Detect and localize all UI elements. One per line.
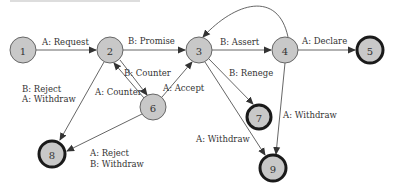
edge-3-7 bbox=[209, 59, 253, 104]
state-node-7-final: 7 bbox=[247, 105, 271, 129]
svg-text:5: 5 bbox=[367, 46, 373, 57]
svg-text:7: 7 bbox=[256, 113, 262, 124]
state-node-6: 6 bbox=[140, 94, 166, 120]
state-node-5-final: 5 bbox=[357, 37, 383, 63]
state-node-1: 1 bbox=[10, 37, 36, 63]
edge-label-6-3: A: Accept bbox=[162, 83, 205, 93]
diagram-svg: A: Request B: Promise B: Assert A: Decla… bbox=[0, 0, 393, 190]
edges bbox=[36, 6, 355, 155]
edge-6-8 bbox=[67, 114, 142, 151]
svg-text:4: 4 bbox=[282, 46, 288, 57]
edge-label-2-3: B: Promise bbox=[128, 36, 175, 46]
state-node-8-final: 8 bbox=[39, 141, 65, 167]
nodes: 1 2 3 4 5 6 7 bbox=[10, 37, 383, 181]
edge-label-2-8-line1: B: Reject bbox=[22, 84, 62, 94]
edge-label-6-2: A: Counter bbox=[94, 87, 143, 97]
edge-label-6-8-line1: A: Reject bbox=[89, 148, 130, 158]
edge-label-4-5: A: Declare bbox=[301, 36, 347, 46]
edge-label-4-9: A: Withdraw bbox=[282, 110, 337, 120]
header-cutoff bbox=[10, 0, 140, 2]
svg-text:6: 6 bbox=[150, 103, 156, 114]
state-diagram: A: Request B: Promise B: Assert A: Decla… bbox=[0, 0, 393, 190]
edge-label-1-2: A: Request bbox=[41, 37, 89, 47]
svg-text:3: 3 bbox=[196, 46, 202, 57]
svg-text:1: 1 bbox=[20, 46, 26, 57]
state-node-3: 3 bbox=[186, 37, 212, 63]
state-node-9-final: 9 bbox=[260, 155, 286, 181]
edge-label-3-9: A: Withdraw bbox=[195, 134, 250, 144]
edge-label-3-7: B: Renege bbox=[229, 68, 273, 78]
state-node-4: 4 bbox=[272, 37, 298, 63]
svg-text:2: 2 bbox=[107, 46, 113, 57]
edge-label-3-4: B: Assert bbox=[220, 37, 260, 47]
edge-label-6-8-line2: B: Withdraw bbox=[90, 159, 145, 169]
edge-4-3 bbox=[203, 6, 288, 37]
svg-text:9: 9 bbox=[270, 164, 276, 175]
edge-labels: A: Request B: Promise B: Assert A: Decla… bbox=[21, 36, 347, 169]
state-node-2: 2 bbox=[97, 37, 123, 63]
edge-4-9 bbox=[276, 63, 285, 154]
edge-label-2-6: B: Counter bbox=[124, 68, 172, 78]
svg-text:8: 8 bbox=[49, 150, 55, 161]
edge-label-2-8-line2: A: Withdraw bbox=[21, 94, 76, 104]
